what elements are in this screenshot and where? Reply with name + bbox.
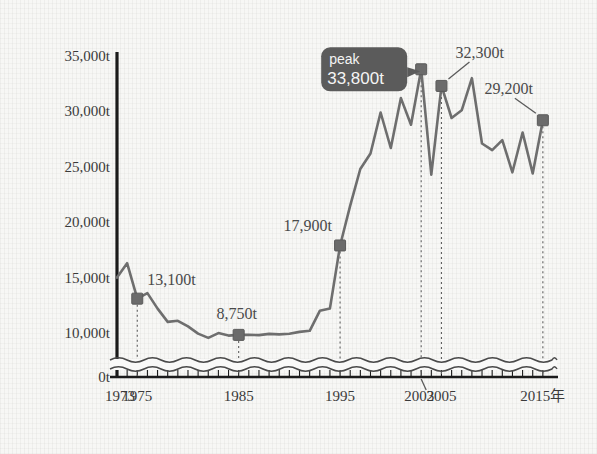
data-marker-1975[interactable]	[132, 293, 143, 304]
axis-break-wave	[110, 358, 557, 372]
y-tick-label: 20,000t	[65, 214, 111, 230]
x-tick-label: 1995	[325, 388, 355, 404]
data-marker-2015[interactable]	[537, 115, 548, 126]
x-tick-label: 2005	[426, 388, 456, 404]
y-tick-label: 0t	[98, 369, 111, 385]
data-point-markers	[132, 64, 549, 341]
value-label-1975: 13,100t	[147, 271, 196, 288]
data-marker-2005[interactable]	[436, 80, 447, 91]
chart-axes	[110, 52, 558, 377]
y-tick-label: 30,000t	[65, 103, 111, 119]
value-label-1985: 8,750t	[216, 305, 257, 322]
line-chart: 0t10,000t15,000t20,000t25,000t30,000t35,…	[0, 0, 597, 454]
y-tick-label: 15,000t	[65, 270, 111, 286]
x-tick-label: 1985	[224, 388, 254, 404]
x-tick-label: 2015年	[520, 388, 565, 404]
callout-title: peak	[329, 51, 360, 67]
y-tick-label: 35,000t	[65, 48, 111, 64]
x-tick-label: 1975	[122, 388, 152, 404]
y-axis-tick-labels: 0t10,000t15,000t20,000t25,000t30,000t35,…	[65, 48, 111, 385]
value-leader-2005	[448, 62, 469, 79]
x-axis-tick-labels: 1973197519851995200320052015年	[105, 379, 565, 404]
y-tick-label: 25,000t	[65, 159, 111, 175]
value-label-1995: 17,900t	[284, 217, 333, 234]
marker-drop-lines	[137, 75, 543, 376]
callout-value: 33,800t	[327, 69, 384, 88]
value-label-2015: 29,200t	[484, 80, 533, 97]
chart-canvas: 0t10,000t15,000t20,000t25,000t30,000t35,…	[0, 0, 597, 454]
data-marker-1985[interactable]	[233, 329, 244, 340]
data-marker-2003[interactable]	[416, 64, 427, 75]
series-polyline	[117, 69, 543, 338]
value-label-2005: 32,300t	[455, 44, 504, 61]
value-leader-2015	[515, 98, 536, 113]
series-line	[117, 69, 543, 338]
peak-callout: peak33,800t	[321, 47, 420, 91]
y-tick-label: 10,000t	[65, 325, 111, 341]
data-marker-1995[interactable]	[335, 240, 346, 251]
